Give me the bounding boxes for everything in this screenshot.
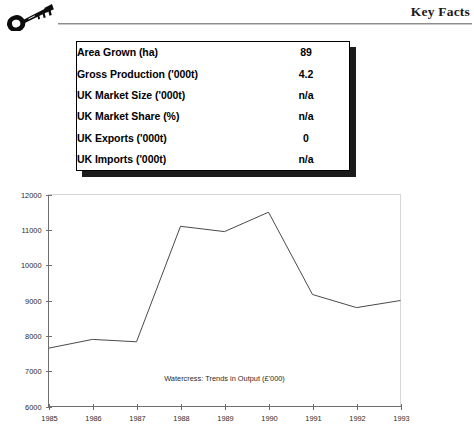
page-title: Key Facts [411, 4, 470, 20]
x-tick-label: 1990 [261, 414, 277, 423]
chart-caption: Watercress: Trends in Output (£'000) [164, 374, 285, 383]
key-facts-table: Area Grown (ha) 89 Gross Production ('00… [77, 42, 349, 170]
x-tick-label: 1986 [85, 414, 101, 423]
x-axis: 198519861987198819891990199119921993 [41, 404, 409, 423]
table-row: UK Market Share (%) n/a [77, 106, 349, 127]
output-trend-chart: 6000700080009000100001100012000 19851986… [0, 186, 474, 436]
x-tick-label: 1987 [129, 414, 145, 423]
table-row: UK Market Size ('000t) n/a [77, 85, 349, 106]
fact-value: 89 [263, 42, 349, 63]
fact-value: 0 [263, 127, 349, 148]
table-row: Area Grown (ha) 89 [77, 42, 349, 63]
data-series-output [49, 212, 401, 348]
fact-value: n/a [263, 106, 349, 127]
header-divider [58, 23, 472, 25]
fact-label: UK Imports ('000t) [77, 149, 263, 170]
fact-value: n/a [263, 149, 349, 170]
x-tick-label: 1992 [349, 414, 365, 423]
y-tick-label: 9000 [25, 297, 41, 306]
x-axis-tick-labels: 198519861987198819891990199119921993 [41, 414, 409, 423]
x-tick-label: 1993 [393, 414, 409, 423]
y-tick-label: 8000 [25, 332, 41, 341]
y-tick-label: 12000 [21, 191, 42, 200]
fact-label: UK Exports ('000t) [77, 127, 263, 148]
table-row: UK Exports ('000t) 0 [77, 127, 349, 148]
table-row: Gross Production ('000t) 4.2 [77, 63, 349, 84]
fact-label: UK Market Size ('000t) [77, 85, 263, 106]
table-row: UK Imports ('000t) n/a [77, 149, 349, 170]
y-tick-label: 11000 [21, 226, 41, 235]
y-tick-label: 10000 [21, 261, 42, 270]
y-axis-tick-labels: 6000700080009000100001100012000 [21, 191, 42, 412]
x-tick-label: 1985 [41, 414, 57, 423]
y-tick-label: 7000 [25, 367, 41, 376]
chart-canvas: 6000700080009000100001100012000 19851986… [0, 186, 474, 436]
y-axis: 6000700080009000100001100012000 [21, 191, 52, 412]
key-facts-panel: Area Grown (ha) 89 Gross Production ('00… [76, 41, 350, 171]
x-tick-label: 1989 [217, 414, 233, 423]
fact-label: Area Grown (ha) [77, 42, 263, 63]
fact-label: UK Market Share (%) [77, 106, 263, 127]
key-icon [4, 3, 56, 31]
x-tick-label: 1988 [173, 414, 189, 423]
x-tick-label: 1991 [305, 414, 321, 423]
fact-label: Gross Production ('000t) [77, 63, 263, 84]
page-header: Key Facts [0, 0, 474, 34]
y-tick-label: 6000 [25, 403, 41, 412]
fact-value: n/a [263, 85, 349, 106]
key-facts-box: Area Grown (ha) 89 Gross Production ('00… [76, 41, 350, 171]
fact-value: 4.2 [263, 63, 349, 84]
